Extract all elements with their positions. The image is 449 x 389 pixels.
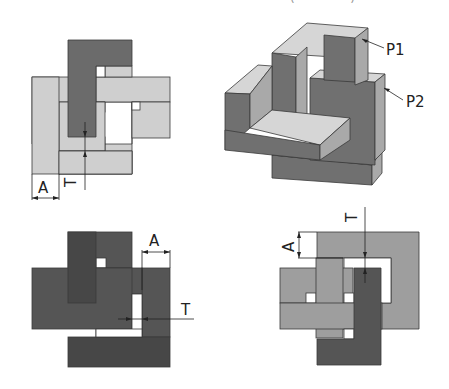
front-hole [132, 102, 140, 110]
front-light-column [32, 77, 59, 174]
iso-top-bridge-right-front [324, 35, 355, 82]
front-light-bottom [59, 151, 132, 174]
tv-dim-a-arrow-left [142, 250, 148, 254]
tv-white-bottom [96, 329, 142, 337]
tv-dim-a-arrow-right [164, 250, 170, 254]
iso-right-block-side [375, 74, 385, 160]
sv-hole [344, 293, 354, 303]
p2-label: P2 [406, 93, 425, 111]
tv-dim-t-label: T [180, 301, 191, 319]
front-hole [96, 66, 105, 77]
p1-label: P1 [386, 41, 405, 59]
sv-dim-t-label: T [343, 212, 361, 223]
sv-dim-a-label: A [280, 241, 298, 252]
isometric-view: P1 P2 [225, 23, 425, 185]
front-view: A T [32, 40, 170, 200]
tv-right-column [142, 268, 170, 337]
tv-hole [96, 258, 106, 268]
tv-bottom-bar [68, 337, 170, 367]
dim-t-label: T [62, 177, 80, 188]
sv-hole [306, 293, 316, 303]
front-light-tab [105, 66, 132, 77]
tv-dark-column [68, 232, 96, 303]
tv-dim-a-label: A [149, 232, 160, 250]
sv-hole [344, 329, 354, 339]
knot-puzzle-diagram: A T P1 P2 [0, 0, 449, 389]
iso-top-bridge-right-side [355, 28, 368, 85]
dim-a-label: A [38, 179, 49, 197]
front-light-bar [96, 77, 170, 102]
top-view: A T [32, 232, 194, 367]
dim-a-arrow-right [53, 196, 59, 200]
side-view: A T [280, 207, 419, 365]
sv-dim-a-arrow-top [297, 232, 301, 238]
